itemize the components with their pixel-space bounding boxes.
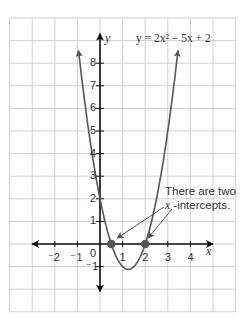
- y-tick-label: 8: [90, 57, 96, 68]
- note-rest: -intercepts.: [170, 199, 230, 211]
- x-axis-label: x: [206, 245, 211, 257]
- x-tick-label: 4: [187, 252, 193, 263]
- equation-label: y = 2x² − 5x + 2: [136, 32, 211, 44]
- y-tick-label: 7: [90, 80, 96, 91]
- note-line-2: x -intercepts.: [165, 198, 236, 212]
- x-tick-label: ⁻1: [70, 252, 82, 263]
- x-tick-label: 3: [165, 252, 171, 263]
- x-tick-label: 0: [90, 248, 96, 259]
- equation-text: y = 2x² − 5x + 2: [136, 32, 211, 44]
- x-tick-label: 2: [142, 252, 148, 263]
- y-tick-label: 1: [90, 215, 96, 226]
- y-tick-label: 2: [90, 193, 96, 204]
- x-tick-label: 1: [120, 252, 126, 263]
- parabola-chart: [0, 0, 241, 318]
- note-line-1: There are two: [165, 184, 236, 198]
- y-axis-label: y: [105, 32, 110, 44]
- y-tick-label: 3: [90, 170, 96, 181]
- annotation-arrows: [117, 207, 172, 238]
- y-tick-label: 5: [90, 125, 96, 136]
- annotation-note: There are two x -intercepts.: [165, 184, 236, 212]
- x-tick-label: ⁻2: [48, 252, 60, 263]
- grid: [10, 18, 236, 312]
- y-tick-label: 4: [90, 148, 96, 159]
- y-tick-label: 6: [90, 102, 96, 113]
- y-tick-label: ⁻1: [86, 261, 98, 272]
